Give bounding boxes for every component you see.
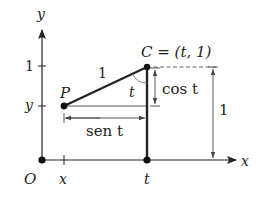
trig-diagram: y x O 1 y x t sen t cos t 1 P C = (t, 1)…: [0, 0, 260, 206]
y-tick-1-label: 1: [25, 58, 34, 74]
point-c: [144, 64, 150, 70]
height-1-label: 1: [219, 101, 229, 119]
point-p: [61, 103, 68, 110]
point-c-label: C = (t, 1): [141, 43, 212, 61]
y-tick-y-label: y: [24, 97, 34, 113]
point-t: [143, 156, 150, 163]
x-tick-x-label: x: [59, 171, 67, 187]
hypotenuse-1-label: 1: [98, 65, 107, 81]
origin-label: O: [24, 170, 36, 188]
angle-t-label: t: [129, 84, 135, 100]
angle-arc: [133, 74, 148, 83]
point-p-label: P: [59, 84, 71, 102]
x-tick-t-label: t: [144, 171, 150, 187]
y-axis-label: y: [36, 6, 46, 22]
sen-t-label: sen t: [86, 122, 123, 140]
cos-t-label: cos t: [162, 80, 198, 98]
origin-point: [38, 156, 45, 163]
x-axis-label: x: [241, 153, 249, 169]
